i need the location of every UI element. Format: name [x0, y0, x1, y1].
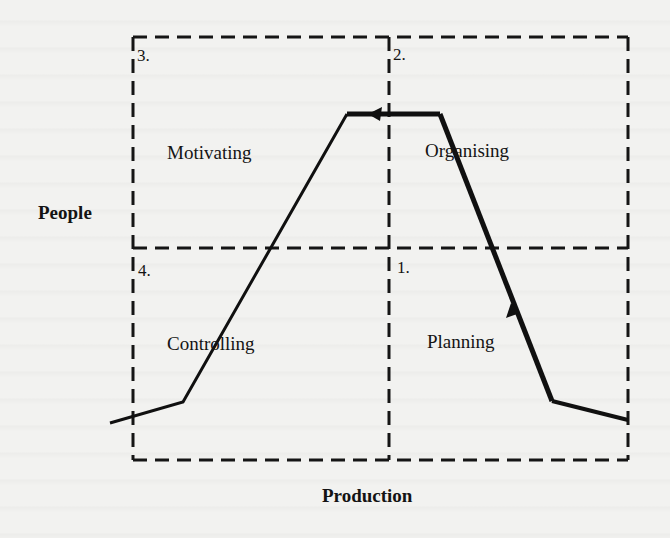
quadrant-label-controlling: Controlling [167, 334, 255, 353]
quadrant-label-organising: Organising [425, 141, 509, 160]
quadrant-number-2: 2. [393, 46, 406, 63]
path-planning-tail [552, 401, 628, 420]
quadrant-number-3: 3. [137, 47, 150, 64]
quadrant-label-planning: Planning [427, 332, 495, 351]
arrow-left-icon [368, 107, 382, 121]
axis-label-people: People [38, 203, 92, 222]
quadrant-number-1: 1. [397, 259, 410, 276]
axis-label-production: Production [322, 486, 412, 505]
quadrant-label-motivating: Motivating [167, 143, 251, 162]
management-cycle-diagram: 3. 2. 1. 4. Motivating Organising Contro… [0, 0, 670, 538]
quadrant-number-4: 4. [138, 262, 151, 279]
dashed-grid [133, 37, 628, 460]
diagram-graphics [0, 0, 670, 538]
